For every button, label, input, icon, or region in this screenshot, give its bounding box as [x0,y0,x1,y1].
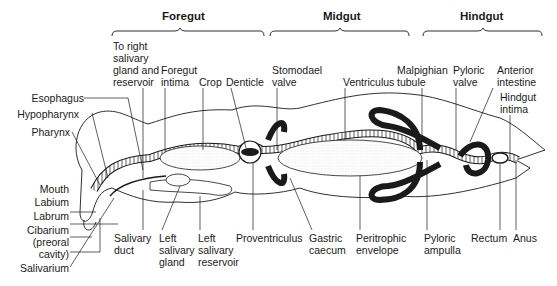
section-hindgut: Hindgut [460,10,503,22]
label-mouth: Mouth [40,183,69,195]
label-to-right-salivary-gland: To right salivary gland and reservoir [113,40,159,88]
label-hypopharynx: Hypopharynx [17,108,79,120]
label-esophagus: Esophagus [31,92,84,104]
label-anus: Anus [513,232,537,244]
alimentary-canal [94,110,518,200]
label-salivarium: Salivarium [20,262,69,274]
label-ventriculus: Ventriculus [343,76,394,88]
section-foregut: Foregut [162,10,205,22]
section-midgut: Midgut [323,10,361,22]
label-peritrophic-envelope: Peritrophic envelope [356,232,406,256]
label-denticle: Denticle [226,76,264,88]
label-crop: Crop [199,76,222,88]
label-gastric-caecum: Gastric caecum [309,232,346,256]
label-malpighian-tubule: Malpighian tubule [397,64,448,88]
label-salivary-duct: Salivary duct [114,232,151,256]
label-cibarium: Cibarium (preoral cavity) [27,224,69,260]
label-left-salivary-reservoir: Left salivary reservoir [198,232,239,268]
section-braces [112,28,542,36]
label-foregut-intima: Foregut intima [161,64,197,88]
label-anterior-intestine: Anterior intestine [497,64,536,88]
label-rectum: Rectum [471,232,507,244]
label-hindgut-intima: Hindgut intima [500,91,536,115]
label-pyloric-ampulla: Pyloric ampulla [424,232,461,256]
label-pharynx: Pharynx [31,126,70,138]
label-proventriculus: Proventriculus [236,232,303,244]
label-stomodael-valve: Stomodael valve [272,64,322,88]
label-left-salivary-gland: Left salivary gland [159,232,195,268]
label-pyloric-valve: Pyloric valve [453,64,485,88]
label-labium: Labium [35,196,69,208]
label-labrum: Labrum [33,210,69,222]
